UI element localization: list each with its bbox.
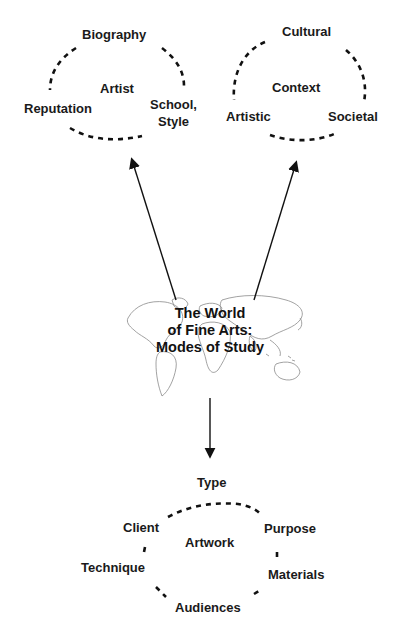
artwork-purpose-label: Purpose [264, 521, 316, 536]
context-cultural-label: Cultural [282, 24, 331, 39]
artist-biography-label: Biography [82, 27, 146, 42]
arrow-to-context [254, 163, 296, 300]
artwork-cycle-ring [144, 503, 277, 597]
artwork-client-label: Client [123, 520, 159, 535]
artist-school-label: School, [150, 97, 197, 112]
center-title: The World of Fine Arts: Modes of Study [130, 305, 290, 356]
artist-reputation-label: Reputation [24, 101, 92, 116]
artwork-technique-label: Technique [81, 560, 145, 575]
center-title-line1: The World [130, 305, 290, 322]
context-center-label: Context [272, 80, 320, 95]
artwork-audiences-label: Audiences [175, 600, 241, 615]
arrow-to-artist [132, 160, 176, 300]
artwork-materials-label: Materials [268, 567, 324, 582]
artwork-center-label: Artwork [185, 535, 234, 550]
context-artistic-label: Artistic [226, 109, 271, 124]
artist-style-label: Style [158, 114, 189, 129]
center-title-line2: of Fine Arts: [130, 322, 290, 339]
artwork-type-label: Type [197, 475, 226, 490]
context-societal-label: Societal [328, 109, 378, 124]
artist-center-label: Artist [100, 81, 134, 96]
center-title-line3: Modes of Study [130, 339, 290, 356]
